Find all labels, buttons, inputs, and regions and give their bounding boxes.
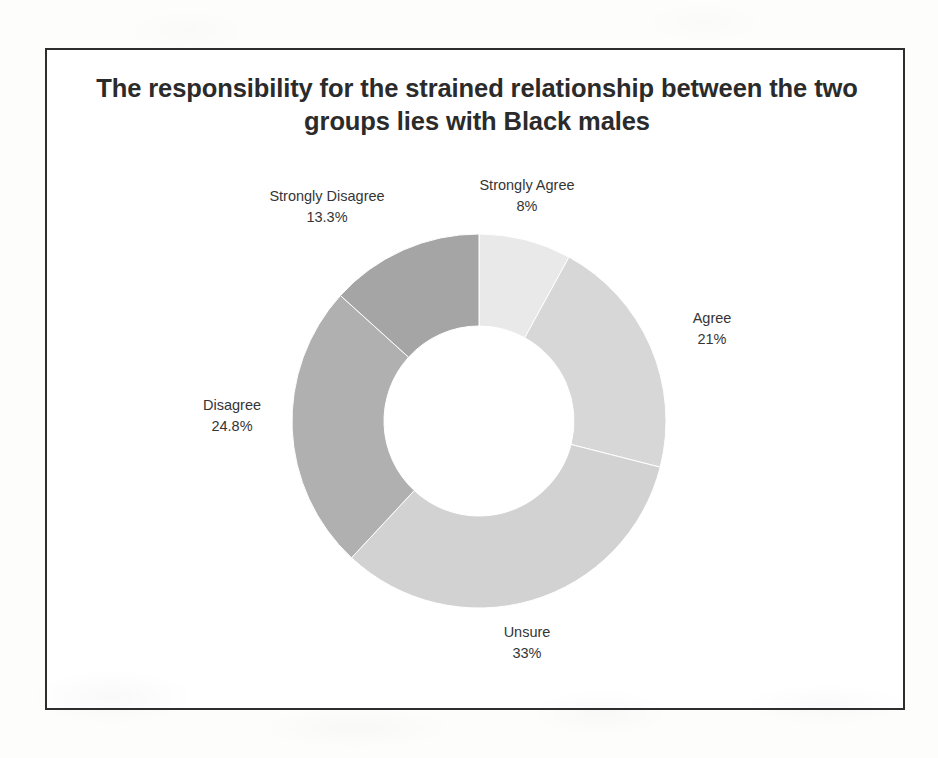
slice-label-strongly-disagree: Strongly Disagree 13.3% [222, 186, 432, 228]
donut-chart: Strongly Agree 8% Agree 21% Unsure 33% D… [47, 50, 903, 708]
slice-label-agree-name: Agree [693, 310, 732, 326]
slice-label-unsure-value: 33% [447, 643, 607, 664]
slice-label-disagree-name: Disagree [203, 397, 261, 413]
slice-label-agree: Agree 21% [637, 308, 787, 350]
donut-chart-svg [47, 50, 903, 708]
slice-label-strongly-agree: Strongly Agree 8% [442, 175, 612, 217]
donut-slice-unsure [352, 444, 661, 608]
slice-label-disagree-value: 24.8% [147, 416, 317, 437]
slice-label-unsure: Unsure 33% [447, 622, 607, 664]
slice-label-strongly-disagree-name: Strongly Disagree [269, 188, 384, 204]
slice-label-strongly-agree-name: Strongly Agree [479, 177, 574, 193]
slice-label-strongly-agree-value: 8% [442, 196, 612, 217]
slice-label-agree-value: 21% [637, 329, 787, 350]
slice-label-unsure-name: Unsure [504, 624, 551, 640]
slide-frame: The responsibility for the strained rela… [45, 48, 905, 710]
slice-label-strongly-disagree-value: 13.3% [222, 207, 432, 228]
slice-label-disagree: Disagree 24.8% [147, 395, 317, 437]
